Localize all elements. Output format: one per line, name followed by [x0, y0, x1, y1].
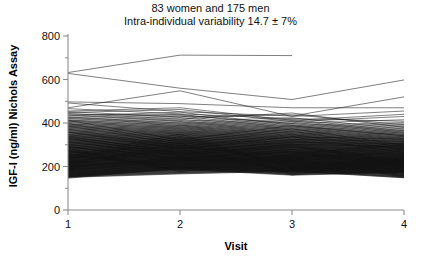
series-line	[68, 97, 404, 116]
series-line	[68, 73, 404, 99]
y-tick-label: 600	[42, 74, 60, 86]
y-tick-label: 200	[42, 161, 60, 173]
series-line	[68, 55, 292, 72]
x-tick-label: 2	[177, 218, 183, 230]
y-tick-label: 800	[42, 30, 60, 42]
series-line	[68, 91, 404, 117]
x-tick-label: 4	[401, 218, 407, 230]
y-tick-label: 0	[54, 204, 60, 216]
x-tick-label: 1	[65, 218, 71, 230]
y-tick-label: 400	[42, 117, 60, 129]
series-group	[68, 55, 404, 178]
x-axis-label: Visit	[68, 240, 404, 252]
x-tick-label: 3	[289, 218, 295, 230]
chart-figure: 83 women and 175 men Intra-individual va…	[0, 0, 421, 269]
plot-area: 02004006008001234	[0, 0, 421, 269]
